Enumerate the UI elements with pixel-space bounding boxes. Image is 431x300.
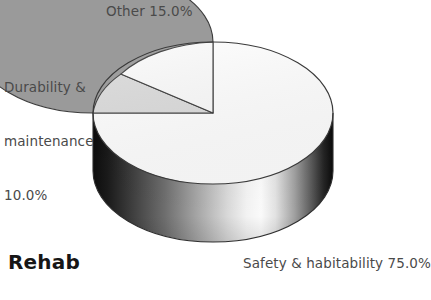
slice-label-durability-maintenance: Durability & maintenance 10.0% bbox=[4, 42, 94, 240]
slice-label-durability-line-1: Durability & bbox=[4, 78, 94, 96]
slice-label-other: Other 15.0% bbox=[106, 3, 193, 20]
slice-label-durability-line-2: maintenance bbox=[4, 132, 94, 150]
chart-title: Rehab bbox=[8, 250, 80, 274]
slice-label-durability-line-3: 10.0% bbox=[4, 186, 94, 204]
pie-side-wall-shading bbox=[93, 113, 333, 242]
slice-label-safety-habitability: Safety & habitability 75.0% bbox=[243, 255, 431, 272]
